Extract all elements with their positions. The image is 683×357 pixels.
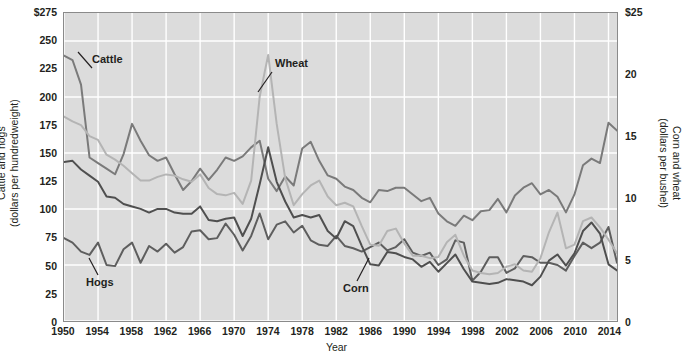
y-axis-left-tick: 225 [39, 62, 57, 74]
x-axis-tick: 1958 [120, 325, 143, 337]
y-axis-left-tick: 75 [45, 231, 57, 243]
y-axis-right-tick: 5 [625, 254, 631, 266]
y-axis-left-tick: 175 [39, 119, 57, 131]
x-axis-title: Year [0, 341, 673, 354]
y-axis-left-tick: 100 [39, 203, 57, 215]
series-label-cattle: Cattle [92, 53, 123, 65]
y-axis-right-title-line2: (dollars per bushel) [658, 118, 670, 208]
series-lines [64, 13, 617, 321]
series-label-wheat: Wheat [275, 57, 308, 69]
x-axis-tick: 2014 [598, 325, 621, 337]
y-axis-right-tick: 0 [625, 316, 631, 328]
series-label-hogs: Hogs [86, 276, 114, 288]
x-axis-tick: 1954 [85, 325, 108, 337]
y-axis-left-tick: $275 [34, 6, 57, 18]
y-axis-right-tick: 15 [625, 130, 637, 142]
y-axis-left-tick: 150 [39, 147, 57, 159]
plot-area [63, 12, 618, 322]
y-axis-left-title: Cattle and hogs (dollars per hundredweig… [0, 83, 21, 243]
y-axis-right-title: Corn and wheat (dollars per bushel) [657, 83, 683, 243]
x-axis-tick: 1990 [393, 325, 416, 337]
x-axis-tick: 2006 [529, 325, 552, 337]
y-axis-left-title-line1: Cattle and hogs [0, 126, 7, 200]
x-axis-tick: 1998 [461, 325, 484, 337]
y-axis-right-tick: 10 [625, 192, 637, 204]
y-axis-right-title-line1: Corn and wheat [671, 126, 683, 200]
x-axis-tick: 1986 [359, 325, 382, 337]
x-axis-tick: 1950 [51, 325, 74, 337]
y-axis-left-tick: 25 [45, 288, 57, 300]
x-axis-tick: 2002 [495, 325, 518, 337]
x-axis-tick: 1966 [188, 325, 211, 337]
y-axis-left-tick: 125 [39, 175, 57, 187]
x-axis-tick: 1962 [154, 325, 177, 337]
y-axis-right-tick: $25 [625, 6, 643, 18]
y-axis-left-tick: 200 [39, 91, 57, 103]
x-axis-tick: 2010 [564, 325, 587, 337]
x-axis-tick: 1982 [325, 325, 348, 337]
x-axis-tick: 1970 [222, 325, 245, 337]
y-axis-left-tick: 250 [39, 34, 57, 46]
x-axis-ticks: 1950195419581962196619701974197819821986… [63, 325, 618, 341]
y-axis-left-title-line2: (dollars per hundredweight) [8, 99, 20, 227]
y-axis-right-tick: 20 [625, 68, 637, 80]
x-axis-tick: 1994 [427, 325, 450, 337]
y-axis-left-tick: 50 [45, 260, 57, 272]
x-axis-tick: 1978 [290, 325, 313, 337]
x-axis-tick: 1974 [256, 325, 279, 337]
series-label-corn: Corn [343, 282, 369, 294]
